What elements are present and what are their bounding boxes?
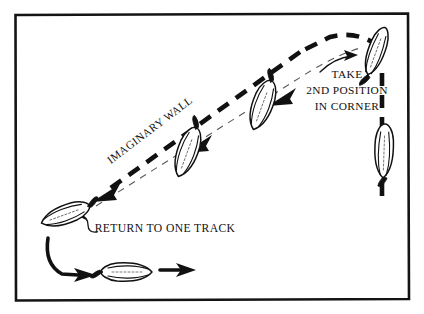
label-take-2nd-position-line2: 2ND POSITION <box>306 84 388 96</box>
label-take-2nd-position-line1: TAKE <box>331 68 362 80</box>
label-return-to-one-track: RETURN TO ONE TRACK <box>95 222 236 235</box>
riding-diagram-figure: TAKE 2ND POSITION IN CORNER IMAGINARY WA… <box>0 0 424 314</box>
diagram-page: TAKE 2ND POSITION IN CORNER IMAGINARY WA… <box>0 0 424 314</box>
page-background <box>0 0 424 314</box>
label-take-2nd-position-line3: IN CORNER <box>315 100 380 112</box>
